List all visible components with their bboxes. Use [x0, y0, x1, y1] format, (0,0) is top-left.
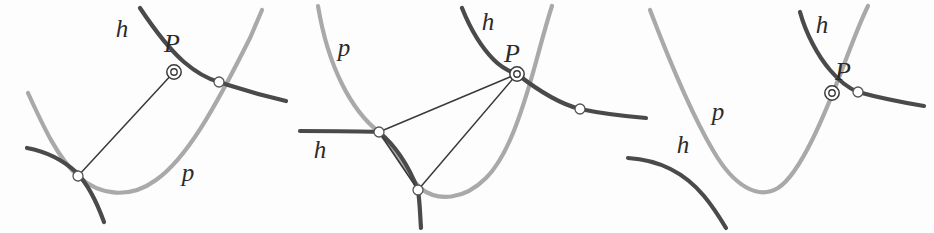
panel2-label-h-left: h [314, 136, 327, 163]
panel2-label-P: P [503, 39, 520, 68]
panel1-point-P-marker [167, 65, 181, 79]
panel2-vertex-bottom [413, 185, 423, 195]
panel1-vertex-right [214, 77, 224, 87]
panel2-point-P-marker [510, 67, 524, 81]
panel3-label-h-top: h [816, 11, 829, 38]
geometry-figure-svg: h P p [0, 0, 934, 233]
panel3-vertex-intersection [853, 87, 863, 97]
panel3-label-p: p [710, 98, 725, 125]
panel2-vertex-left [374, 127, 384, 137]
panel1-label-P: P [163, 29, 180, 58]
panel1-label-p: p [180, 159, 195, 186]
panel3-label-h-left: h [677, 131, 690, 158]
figure-background [0, 0, 934, 233]
panel1-vertex-bottom-left [73, 171, 83, 181]
panel3-label-P: P [834, 57, 851, 86]
panel3-point-P-marker [825, 86, 839, 100]
panel2-vertex-right [575, 104, 585, 114]
panel1-label-h-top: h [116, 15, 129, 42]
panel2-hyperbola-left-in [300, 131, 379, 132]
panel2-label-h-top: h [482, 8, 495, 35]
figure-container: h P p [0, 0, 934, 233]
panel2-label-p: p [336, 34, 351, 61]
